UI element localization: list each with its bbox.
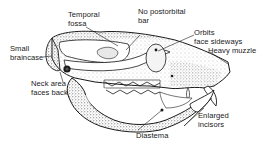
label-diastema: Diastema	[136, 132, 168, 141]
label-neck-area-faces-back: Neck area faces back	[31, 80, 68, 97]
label-orbits-face-sideways: Orbits face sideways	[194, 29, 242, 46]
label-enlarged-incisors: Enlarged incisors	[198, 112, 229, 129]
skull-diagram: Temporal fossa No postorbital bar Orbits…	[0, 0, 265, 145]
label-heavy-muzzle: Heavy muzzle	[208, 47, 256, 56]
label-temporal-fossa: Temporal fossa	[68, 11, 100, 28]
label-no-postorbital-bar: No postorbital bar	[138, 8, 186, 25]
label-small-braincase: Small braincase	[10, 45, 43, 62]
